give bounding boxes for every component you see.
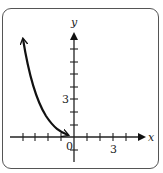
y-tick-label-3: 3 [62, 93, 69, 106]
exponential-curve [23, 39, 68, 135]
coordinate-plane: x y 0 3 3 [0, 0, 163, 173]
x-axis-label: x [148, 131, 155, 144]
y-axis-label: y [70, 16, 78, 29]
origin-label: 0 [66, 140, 73, 153]
x-tick-label-3: 3 [110, 143, 117, 156]
x-axis [10, 133, 144, 141]
